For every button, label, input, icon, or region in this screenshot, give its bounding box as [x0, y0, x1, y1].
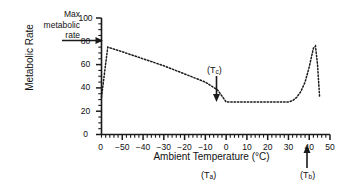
tick-label: 40: [75, 82, 97, 92]
tc-annotation-label: (Tc): [207, 65, 222, 78]
tb-annotation-label: (Tb): [300, 170, 315, 183]
tc-base: (T: [207, 65, 216, 75]
tick-label: 100: [75, 13, 97, 23]
tick-label: 0: [75, 129, 97, 139]
tick-label: 0: [93, 142, 109, 152]
max-rate-line-2: metabolic: [8, 20, 80, 31]
tb-base: (T: [300, 170, 309, 180]
tc-close: ): [219, 65, 222, 75]
tick-label: 50: [317, 142, 343, 152]
tick-label: 80: [75, 36, 97, 46]
y-axis-title: Metabolic Rate: [24, 3, 35, 113]
max-rate-line-1: Max: [8, 9, 80, 20]
ta-annotation-label: (Ta): [201, 170, 216, 183]
tick-label: 20: [75, 106, 97, 116]
ta-close: ): [213, 170, 216, 180]
max-metabolic-rate-label: Max metabolic rate: [8, 9, 80, 41]
tb-close: ): [312, 170, 315, 180]
max-rate-line-3: rate: [8, 30, 80, 41]
x-axis-title: Ambient Temperature (°C): [104, 151, 319, 162]
tick-label: 60: [75, 59, 97, 69]
ta-base: (T: [201, 170, 210, 180]
